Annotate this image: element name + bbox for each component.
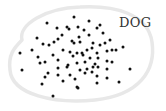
dot bbox=[21, 69, 24, 72]
dot bbox=[79, 69, 82, 72]
dot bbox=[62, 80, 65, 83]
dot bbox=[44, 61, 47, 64]
dot bbox=[76, 52, 79, 55]
dot bbox=[111, 61, 114, 64]
dot bbox=[31, 49, 34, 52]
dot bbox=[68, 28, 71, 31]
dot bbox=[84, 72, 87, 75]
dot bbox=[94, 63, 97, 66]
dot bbox=[88, 34, 91, 37]
dot bbox=[106, 60, 109, 63]
dot bbox=[86, 68, 89, 71]
dot bbox=[91, 47, 94, 50]
dot bbox=[99, 24, 102, 27]
dot bbox=[106, 68, 109, 71]
dot bbox=[44, 76, 47, 79]
dot bbox=[84, 61, 87, 64]
dot bbox=[92, 66, 95, 69]
dot bbox=[106, 77, 109, 80]
dot bbox=[52, 95, 55, 98]
dot bbox=[39, 62, 42, 65]
dot bbox=[115, 49, 118, 52]
dot bbox=[96, 27, 99, 30]
dot bbox=[86, 49, 89, 52]
dot bbox=[83, 29, 86, 32]
dot bbox=[56, 27, 59, 30]
dot bbox=[41, 83, 44, 86]
dot bbox=[57, 74, 60, 77]
dot bbox=[97, 66, 100, 69]
dot bbox=[118, 81, 121, 84]
dot bbox=[78, 36, 81, 39]
category-label: DOG bbox=[119, 15, 151, 31]
dot bbox=[82, 54, 85, 57]
dot bbox=[69, 51, 72, 54]
dot bbox=[47, 72, 50, 75]
dot bbox=[88, 20, 91, 23]
dot bbox=[73, 16, 76, 19]
dot bbox=[96, 75, 99, 78]
dot bbox=[99, 44, 102, 47]
dot bbox=[36, 37, 39, 40]
dot bbox=[42, 43, 45, 46]
dot bbox=[79, 41, 82, 44]
dot bbox=[19, 52, 22, 55]
dot bbox=[122, 46, 125, 49]
dot bbox=[62, 49, 65, 52]
dot bbox=[76, 62, 79, 65]
dot bbox=[72, 55, 75, 58]
dot bbox=[61, 34, 64, 37]
dot bbox=[77, 87, 80, 90]
dot bbox=[92, 42, 95, 45]
dot bbox=[46, 22, 49, 25]
dot bbox=[96, 82, 99, 85]
dot bbox=[74, 78, 77, 81]
dot bbox=[96, 52, 99, 55]
dot bbox=[109, 39, 112, 42]
dot bbox=[104, 42, 107, 45]
dot bbox=[57, 38, 60, 41]
dot bbox=[69, 74, 72, 77]
dot bbox=[77, 26, 80, 29]
dot bbox=[48, 44, 51, 47]
dot bbox=[111, 49, 114, 52]
dot bbox=[97, 57, 100, 60]
dot bbox=[102, 32, 105, 35]
dot bbox=[57, 59, 60, 62]
dot bbox=[129, 68, 132, 71]
dot-cluster bbox=[19, 16, 132, 98]
dot bbox=[57, 67, 60, 70]
dot bbox=[73, 42, 76, 45]
dot bbox=[89, 57, 92, 60]
dot bbox=[52, 54, 55, 57]
dot bbox=[106, 50, 109, 53]
dot bbox=[53, 41, 56, 44]
dot bbox=[91, 71, 94, 74]
dot bbox=[37, 56, 40, 59]
dot bbox=[66, 66, 69, 69]
